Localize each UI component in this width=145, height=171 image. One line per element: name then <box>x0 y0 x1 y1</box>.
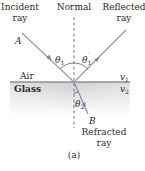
air-label: Air <box>19 71 34 81</box>
v1-label: v1 <box>120 72 129 83</box>
point-b-label: B <box>88 116 96 126</box>
reflected-label-line2: ray <box>117 13 133 23</box>
normal-label: Normal <box>57 2 91 12</box>
refraction-reflection-diagram: Incident ray Normal Reflected ray A θ1 θ… <box>0 0 145 171</box>
theta1-prime-label: θ1′ <box>82 51 91 66</box>
incident-arrowhead-icon <box>46 54 52 61</box>
refracted-label-line1: Refracted <box>82 127 127 137</box>
figure-caption: (a) <box>68 150 80 160</box>
point-a-label: A <box>14 36 22 46</box>
refracted-label-line2: ray <box>97 138 113 148</box>
reflected-label-line1: Reflected <box>102 2 145 12</box>
incident-label-line1: Incident <box>1 2 39 12</box>
glass-label: Glass <box>14 84 41 94</box>
incident-label-line2: ray <box>13 13 29 23</box>
theta1-label: θ1 <box>55 55 64 66</box>
